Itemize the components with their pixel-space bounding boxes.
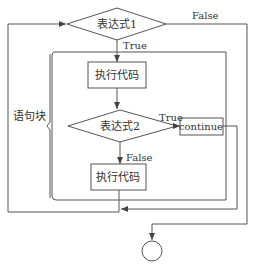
block-brace bbox=[47, 54, 50, 198]
condition1-label: 表达式1 bbox=[97, 17, 137, 31]
flowchart-canvas: 表达式1 False True 执行代码 表达式2 True continue … bbox=[0, 0, 256, 273]
execute1-label: 执行代码 bbox=[95, 68, 139, 82]
c1-true-label: True bbox=[123, 40, 147, 51]
block-label: 语句块 bbox=[13, 110, 46, 123]
c1-false-label: False bbox=[192, 10, 219, 21]
end-circle bbox=[142, 241, 162, 261]
execute2-label: 执行代码 bbox=[96, 170, 140, 184]
c2-false-label: False bbox=[126, 152, 153, 163]
condition2-label: 表达式2 bbox=[100, 119, 140, 133]
continue-label: continue bbox=[179, 121, 223, 132]
